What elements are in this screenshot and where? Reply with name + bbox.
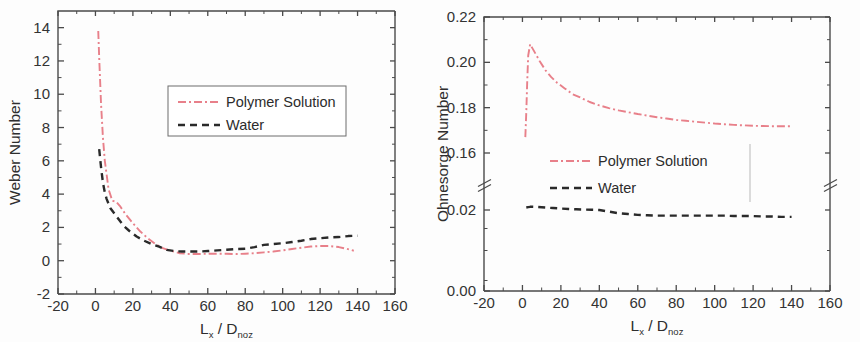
legend-box bbox=[540, 142, 750, 202]
y-tick-label: 0.00 bbox=[447, 282, 476, 299]
legend-label-polymer-solution: Polymer Solution bbox=[598, 153, 708, 169]
x-tick-label: 100 bbox=[270, 297, 295, 314]
y-axis-title: Weber Number bbox=[6, 100, 23, 205]
series-line-water bbox=[99, 149, 357, 251]
y-tick-label: 12 bbox=[33, 52, 50, 69]
x-tick-label: 20 bbox=[125, 297, 142, 314]
y-tick-label: 10 bbox=[33, 85, 50, 102]
y-tick-label: 4 bbox=[42, 185, 50, 202]
y-tick-label: 0.20 bbox=[447, 53, 476, 70]
ohnesorge-number-panel: -200204060801001201401600.000.020.160.18… bbox=[430, 0, 860, 342]
axes-group: -20020406080100120140160-202468101214 bbox=[33, 11, 407, 314]
x-tick-label: 100 bbox=[702, 294, 727, 311]
series-line-polymer-solution bbox=[98, 31, 354, 254]
x-tick-label: 140 bbox=[345, 297, 370, 314]
x-tick-label: 40 bbox=[162, 297, 179, 314]
legend-label-water: Water bbox=[226, 117, 264, 133]
series-line-water bbox=[526, 207, 791, 217]
x-tick-label: 160 bbox=[382, 297, 407, 314]
x-tick-label: -20 bbox=[47, 297, 69, 314]
y-tick-label: -2 bbox=[37, 285, 50, 302]
y-tick-label: 6 bbox=[42, 152, 50, 169]
x-tick-label: -20 bbox=[473, 294, 495, 311]
y-tick-label: 0.22 bbox=[447, 8, 476, 25]
x-axis-title-mid: / D bbox=[644, 317, 668, 334]
series-group bbox=[98, 31, 357, 254]
x-tick-label: 120 bbox=[308, 297, 333, 314]
y-tick-label: 0.18 bbox=[447, 99, 476, 116]
weber-number-panel: -20020406080100120140160-202468101214Web… bbox=[0, 0, 430, 342]
y-tick-label: 8 bbox=[42, 119, 50, 136]
figure-canvas: -20020406080100120140160-202468101214Web… bbox=[0, 0, 860, 342]
x-tick-label: 80 bbox=[237, 297, 254, 314]
legend-label-water: Water bbox=[598, 180, 636, 196]
x-axis-title: Lx / Dnoz bbox=[631, 317, 684, 337]
y-tick-label: 0.16 bbox=[447, 144, 476, 161]
x-tick-label: 140 bbox=[779, 294, 804, 311]
y-tick-label: 0.02 bbox=[447, 201, 476, 218]
weber-number-svg: -20020406080100120140160-202468101214Web… bbox=[0, 0, 430, 342]
x-tick-label: 80 bbox=[668, 294, 685, 311]
x-tick-label: 0 bbox=[91, 297, 99, 314]
legend-label-polymer-solution: Polymer Solution bbox=[226, 94, 336, 110]
x-tick-label: 40 bbox=[591, 294, 608, 311]
plot-frame-left-top bbox=[58, 11, 395, 294]
x-tick-label: 0 bbox=[518, 294, 526, 311]
x-tick-label: 60 bbox=[199, 297, 216, 314]
legend: Polymer SolutionWater bbox=[168, 86, 346, 136]
y-tick-label: 0 bbox=[42, 252, 50, 269]
legend: Polymer SolutionWater bbox=[540, 142, 750, 202]
y-axis-title: Ohnesorge Number bbox=[434, 86, 451, 222]
y-tick-label: 14 bbox=[33, 19, 50, 36]
x-tick-label: 60 bbox=[629, 294, 646, 311]
series-line-polymer-solution bbox=[525, 44, 791, 137]
x-tick-label: 160 bbox=[817, 294, 842, 311]
x-axis-title-sub-noz: noz bbox=[238, 329, 254, 340]
x-tick-label: 20 bbox=[553, 294, 570, 311]
x-axis-title: Lx / Dnoz bbox=[200, 320, 253, 340]
x-axis-title-mid: / D bbox=[213, 320, 237, 337]
ohnesorge-number-svg: -200204060801001201401600.000.020.160.18… bbox=[430, 0, 860, 342]
x-axis-title-sub-noz: noz bbox=[668, 326, 684, 337]
y-tick-label: 2 bbox=[42, 218, 50, 235]
x-tick-label: 120 bbox=[741, 294, 766, 311]
